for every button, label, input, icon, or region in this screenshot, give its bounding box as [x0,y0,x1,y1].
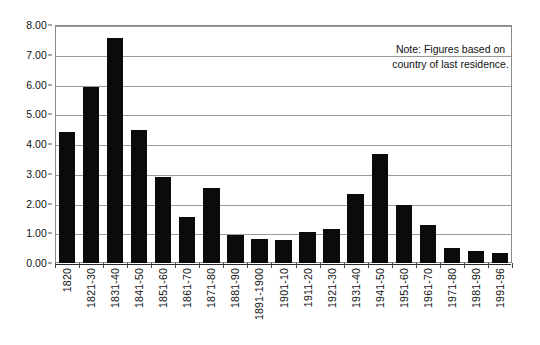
x-axis-tick-label: 1961-70 [422,268,434,308]
bar [420,225,436,263]
y-axis-tick-label: 6.00 [26,79,47,91]
y-axis-tick [48,54,52,55]
bar [275,240,291,264]
y-axis-tick-label: 1.00 [26,227,47,239]
x-axis-tick-label: 1971-80 [446,268,458,308]
bar [444,248,460,263]
y-axis-tick-label: 8.00 [26,19,47,31]
x-axis-tick-label: 1851-60 [157,268,169,308]
bar [347,194,363,263]
y-axis-tick [48,233,52,234]
x-axis-tick [512,263,513,268]
bar [372,154,388,263]
bar [59,132,75,263]
y-axis-tick [48,114,52,115]
y-axis-tick [48,25,52,26]
x-axis-tick-label: 1951-60 [398,268,410,308]
bar [155,177,171,263]
x-axis-tick-label: 1861-70 [181,268,193,308]
bar [227,235,243,263]
x-axis-tick-label: 1921-30 [326,268,338,308]
y-axis-tick-label: 7.00 [26,49,47,61]
x-axis-tick-label: 1831-40 [109,268,121,308]
y-axis-tick-label: 2.00 [26,198,47,210]
chart-note-line-2: country of last residence. [383,57,518,72]
y-axis-tick [48,144,52,145]
bar [251,239,267,263]
x-axis-tick-label: 1891-1900 [253,268,265,320]
y-axis-tick-label: 4.00 [26,138,47,150]
x-axis-tick-label: 1871-80 [205,268,217,308]
y-axis-tick-label: 3.00 [26,168,47,180]
x-axis-tick-label: 1881-90 [229,268,241,308]
x-axis-labels: 18201821-301831-401841-501851-601861-701… [55,268,512,343]
y-axis: 0.001.002.003.004.005.006.007.008.00 [0,0,55,290]
y-axis-tick [48,263,52,264]
bar [83,87,99,263]
bar [396,205,412,263]
y-axis-tick-label: 0.00 [26,257,47,269]
bar [131,130,147,263]
x-axis-tick-label: 1820 [61,268,73,292]
bar [468,251,484,263]
x-axis-tick-label: 1941-50 [374,268,386,308]
x-axis-tick-label: 1991-96 [494,268,506,308]
bar [492,253,508,263]
x-axis-tick-label: 1841-50 [133,268,145,308]
x-axis-tick-label: 1901-10 [278,268,290,308]
bar [203,188,219,263]
y-axis-tick [48,203,52,204]
y-axis-tick [48,84,52,85]
x-axis-tick-label: 1931-40 [350,268,362,308]
bar-chart: 0.001.002.003.004.005.006.007.008.00 182… [0,0,540,345]
bar [299,232,315,263]
y-axis-tick-label: 5.00 [26,108,47,120]
x-axis-tick-label: 1821-30 [85,268,97,308]
chart-note: Note: Figures based on country of last r… [383,42,518,72]
y-axis-tick [48,173,52,174]
bar [107,38,123,263]
chart-note-line-1: Note: Figures based on [383,42,518,57]
x-axis-tick-label: 1981-90 [470,268,482,308]
bar [179,217,195,263]
bar [323,229,339,263]
x-axis-tick-label: 1911-20 [302,268,314,307]
